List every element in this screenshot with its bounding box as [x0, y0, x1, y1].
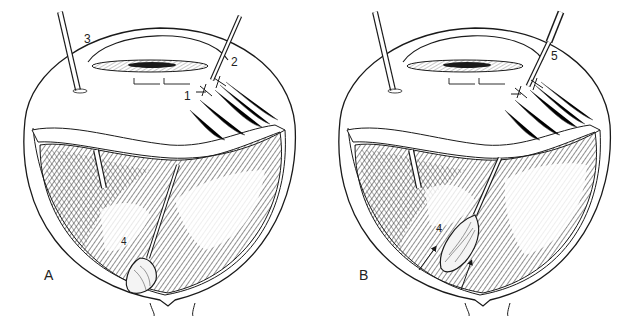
- callout-label: 5: [551, 50, 558, 62]
- panel-letter: B: [359, 268, 368, 282]
- panel-letter: A: [44, 268, 53, 282]
- callout-label: 4: [121, 237, 127, 247]
- callout-label: 2: [231, 56, 238, 68]
- callout-label: 1: [184, 90, 191, 102]
- callout-label: 4: [436, 223, 442, 234]
- panel-b: 5 4 B: [315, 0, 630, 316]
- callout-label: 3: [84, 33, 91, 45]
- panel-a: 3 2 1 4 A: [0, 0, 315, 316]
